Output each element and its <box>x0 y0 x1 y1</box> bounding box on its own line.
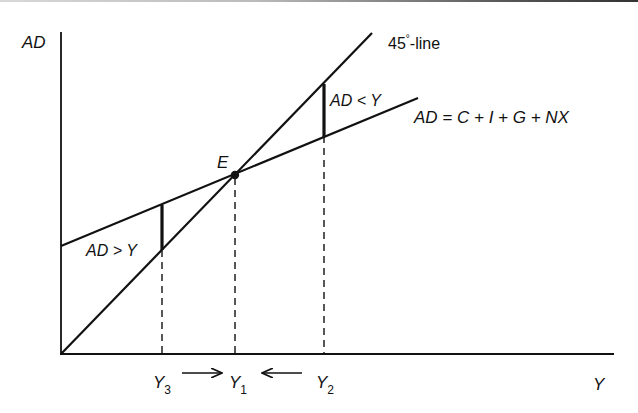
equilibrium-label: E <box>217 153 229 172</box>
y-axis-label: AD <box>21 33 46 52</box>
aggregate-demand-line <box>61 98 418 246</box>
excess-supply-label: AD < Y <box>329 92 382 109</box>
excess-demand-label: AD > Y <box>85 242 138 259</box>
forty-five-degree-line <box>61 33 372 354</box>
equilibrium-point <box>231 171 239 179</box>
tick-label-y2: Y2 <box>316 373 334 397</box>
tick-label-y1: Y1 <box>229 373 247 397</box>
ad-equation-label: AD = C + I + G + NX <box>413 108 570 127</box>
forty-five-line-label: 45°-line <box>388 33 440 52</box>
tick-label-y3: Y3 <box>153 373 171 397</box>
x-axis-label: Y <box>593 375 606 394</box>
keynesian-cross-diagram: AD Y 45°-line AD = C + I + G + NX E AD >… <box>0 0 638 413</box>
